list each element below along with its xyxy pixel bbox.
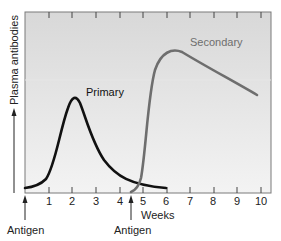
tick-label-3: 3 xyxy=(93,195,99,207)
tick-label-8: 8 xyxy=(210,195,216,207)
y-axis-arrowhead-icon xyxy=(12,108,17,116)
antigen-arrowhead-2-icon xyxy=(129,195,134,203)
tick-label-7: 7 xyxy=(187,195,193,207)
tick-label-2: 2 xyxy=(69,195,75,207)
antibody-response-chart: 1 2 3 4 5 6 7 8 9 10 Weeks Plasma antibo… xyxy=(0,0,281,241)
antigen-label-1: Antigen xyxy=(7,224,44,236)
x-axis-title: Weeks xyxy=(141,209,175,221)
antigen-label-2: Antigen xyxy=(114,224,151,236)
secondary-label: Secondary xyxy=(190,36,243,48)
tick-label-5: 5 xyxy=(140,195,146,207)
tick-label-10: 10 xyxy=(255,195,267,207)
tick-label-6: 6 xyxy=(163,195,169,207)
tick-label-4: 4 xyxy=(117,195,123,207)
tick-label-9: 9 xyxy=(234,195,240,207)
primary-label: Primary xyxy=(86,86,124,98)
x-tick-labels: 1 2 3 4 5 6 7 8 9 10 xyxy=(46,195,267,207)
antigen-arrowhead-1-icon xyxy=(23,195,28,203)
y-axis-title: Plasma antibodies xyxy=(8,15,20,105)
tick-label-1: 1 xyxy=(46,195,52,207)
